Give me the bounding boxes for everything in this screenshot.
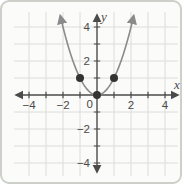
plotted-point: [110, 74, 118, 82]
plotted-point: [76, 74, 84, 82]
y-tick-label: −4: [77, 157, 91, 169]
parabola-graph: −4−22442−2−40xy: [2, 2, 182, 184]
x-tick-label: 4: [162, 99, 169, 111]
x-tick-label: −2: [56, 99, 69, 111]
y-tick-label: 2: [84, 55, 90, 67]
y-tick-label: 4: [84, 21, 91, 33]
y-tick-label: −2: [77, 123, 90, 135]
origin-label: 0: [87, 98, 93, 110]
y-axis-label: y: [99, 9, 107, 24]
graph-card: −4−22442−2−40xy: [0, 0, 182, 184]
x-tick-label: −4: [22, 99, 36, 111]
x-axis-label: x: [173, 77, 180, 92]
x-tick-label: 2: [128, 99, 134, 111]
plotted-point: [93, 91, 101, 99]
